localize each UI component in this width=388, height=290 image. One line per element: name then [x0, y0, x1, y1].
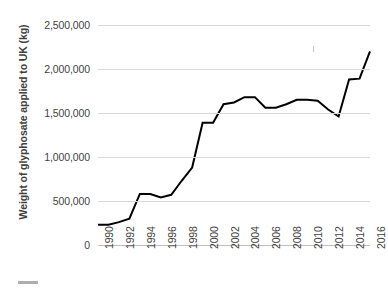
- scan-artifact-bottom: [18, 281, 38, 284]
- x-tick-label: 1992: [124, 226, 136, 249]
- x-tick-label: 2000: [208, 226, 220, 249]
- x-tick-label: 1996: [166, 226, 178, 249]
- x-axis-tick-labels: 1990199219941996199820002002200420062008…: [0, 0, 388, 290]
- x-tick-label: 2008: [291, 226, 303, 249]
- x-tick-label: 2004: [249, 226, 261, 249]
- x-tick-label: 1998: [187, 226, 199, 249]
- x-tick-label: 2012: [333, 226, 345, 249]
- x-tick-label: 2002: [229, 226, 241, 249]
- scan-artifact-top: [313, 46, 314, 52]
- x-tick-label: 2014: [354, 226, 366, 249]
- line-chart: Weight of glyphosate applied to UK (kg) …: [0, 0, 388, 290]
- x-tick-label: 2016: [375, 226, 387, 249]
- x-tick-label: 1990: [103, 226, 115, 249]
- x-tick-label: 2010: [312, 226, 324, 249]
- x-tick-label: 1994: [145, 226, 157, 249]
- x-tick-label: 2006: [270, 226, 282, 249]
